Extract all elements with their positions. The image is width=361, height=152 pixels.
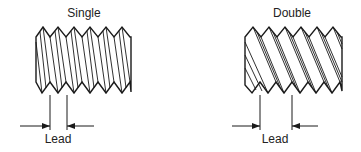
single-lead-dimension: Lead [20,95,94,146]
double-lead-dimension: Lead [232,95,318,146]
single-thread-panel: Single [20,6,131,146]
single-title: Single [67,6,101,20]
double-lead-label: Lead [262,132,289,146]
thread-lead-diagram: Single [0,0,361,152]
double-thread-screw [245,27,342,93]
double-title: Double [273,6,311,20]
single-thread-screw [36,27,131,93]
single-lead-label: Lead [45,132,72,146]
double-thread-panel: Double [232,6,342,146]
